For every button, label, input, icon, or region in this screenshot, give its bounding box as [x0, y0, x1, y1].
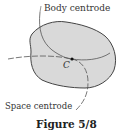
space-centrode-label: Space centrode — [5, 101, 72, 111]
point-c — [70, 57, 73, 60]
point-c-label: C — [63, 60, 70, 70]
body-centrode-label: Body centrode — [44, 3, 110, 13]
figure-caption: Figure 5/8 — [36, 118, 97, 130]
figure-5-8: Body centrode C Space centrode Figure 5/… — [0, 0, 132, 139]
rigid-body-shape — [30, 22, 116, 89]
body-label-leader — [40, 6, 41, 12]
